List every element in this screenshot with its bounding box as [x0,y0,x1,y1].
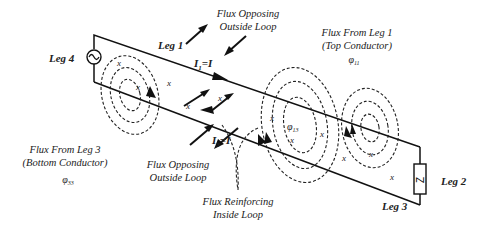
svg-text:x: x [135,82,140,92]
flux-reinforcing-label: Flux Reinforcing Inside Loop [201,196,273,220]
flux-mid-label: φ13 [287,121,299,133]
svg-text:x: x [116,58,121,68]
flux-opposing-top-label: Flux Opposing Outside Loop [216,8,280,32]
leg4-label: Leg 4 [48,52,75,64]
leg3-label: Leg 3 [381,200,408,212]
svg-text:x: x [319,129,324,139]
load-impedance: Z [414,164,426,194]
svg-text:x: x [389,172,394,182]
ac-source-icon [87,50,101,64]
leg1-label: Leg 1 [157,39,183,51]
current-label-i3: I3=I [211,134,231,149]
svg-text:φ11: φ11 [348,54,359,66]
svg-text:φ33: φ33 [62,174,74,186]
svg-text:Outside Loop: Outside Loop [150,172,207,183]
svg-text:Outside Loop: Outside Loop [220,21,277,32]
svg-text:Flux Opposing: Flux Opposing [216,8,280,19]
flux-leg3-label: Flux From Leg 3 (Bottom Conductor) φ33 [23,144,108,186]
flux-arrowheads [146,86,356,146]
svg-text:Flux From Leg 1: Flux From Leg 1 [320,27,392,38]
svg-text:x: x [341,153,346,163]
svg-text:φ13: φ13 [287,121,299,133]
svg-text:Flux Reinforcing: Flux Reinforcing [201,196,273,207]
transmission-loop-diagram: Z [0,0,486,235]
svg-text:Flux Opposing: Flux Opposing [146,159,210,170]
current-arrow-top [212,72,228,80]
svg-text:Flux From Leg 3: Flux From Leg 3 [28,144,100,155]
svg-text:x: x [289,135,294,145]
svg-text:x: x [166,78,171,88]
svg-text:(Bottom Conductor): (Bottom Conductor) [23,157,108,169]
leg2-label: Leg 2 [440,175,467,187]
conductor-wires [94,35,420,205]
svg-text:I3=I: I3=I [211,134,231,149]
bottom-conductor [94,82,420,205]
flux-leg1-label: Flux From Leg 1 (Top Conductor) φ11 [320,27,392,66]
top-conductor [94,35,420,147]
flux-opposing-bottom-label: Flux Opposing Outside Loop [146,159,210,183]
svg-text:Inside Loop: Inside Loop [212,209,263,220]
load-label: Z [415,177,426,183]
svg-text:x: x [269,113,274,123]
svg-text:(Top Conductor): (Top Conductor) [322,40,392,52]
svg-text:x: x [217,93,222,103]
svg-text:x: x [368,149,373,159]
svg-text:x: x [185,101,190,111]
